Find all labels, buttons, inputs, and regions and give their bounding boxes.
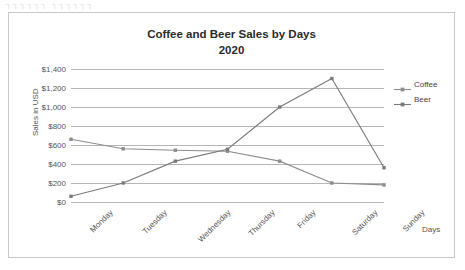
chart-legend: CoffeeBeer xyxy=(394,77,464,107)
data-point-marker xyxy=(382,166,385,169)
legend-label: Coffee xyxy=(414,80,437,89)
y-tick-label: $800 xyxy=(48,122,66,131)
x-tick-label: Monday xyxy=(88,208,114,234)
x-axis-tick-labels: MondayTuesdayWednesdayThursdayFridaySatu… xyxy=(71,208,384,258)
top-text-artifact: ┐┐┐┐┐┐ ┐┐┐┐┐┐ xyxy=(6,0,206,10)
x-axis-title: Days xyxy=(422,225,440,234)
y-tick-label: $600 xyxy=(48,141,66,150)
y-tick-label: $0 xyxy=(57,198,66,207)
legend-item-coffee[interactable]: Coffee xyxy=(394,77,464,92)
data-point-marker xyxy=(69,195,72,198)
x-tick-label: Tuesday xyxy=(141,208,169,236)
legend-label: Beer xyxy=(414,95,431,104)
x-tick-label: Saturday xyxy=(350,208,379,237)
series-line-beer xyxy=(71,79,384,197)
series-lines xyxy=(71,69,384,202)
legend-swatch-icon xyxy=(394,80,411,89)
chart-title-block: Coffee and Beer Sales by Days 2020 xyxy=(9,27,454,58)
data-point-marker xyxy=(278,159,281,162)
y-tick-label: $1,000 xyxy=(42,103,66,112)
data-point-marker xyxy=(330,181,333,184)
gridline xyxy=(71,202,384,203)
y-tick-label: $400 xyxy=(48,160,66,169)
legend-swatch-icon xyxy=(394,95,411,104)
series-line-coffee xyxy=(71,139,384,185)
data-point-marker xyxy=(174,149,177,152)
chart-frame: Coffee and Beer Sales by Days 2020 Sales… xyxy=(8,12,455,258)
y-axis-title: Sales in USD xyxy=(31,88,40,136)
data-point-marker xyxy=(330,77,333,80)
y-tick-label: $1,400 xyxy=(42,65,66,74)
legend-item-beer[interactable]: Beer xyxy=(394,92,464,107)
data-point-marker xyxy=(226,148,229,151)
y-tick-label: $200 xyxy=(48,179,66,188)
data-point-marker xyxy=(69,138,72,141)
data-point-marker xyxy=(382,183,385,186)
data-point-marker xyxy=(121,181,124,184)
x-tick-label: Wednesday xyxy=(197,208,233,244)
chart-subtitle: 2020 xyxy=(9,42,454,58)
plot-area: $0$200$400$600$800$1,000$1,200$1,400 xyxy=(71,69,384,202)
data-point-marker xyxy=(174,159,177,162)
chart-title: Coffee and Beer Sales by Days xyxy=(9,27,454,42)
x-tick-label: Friday xyxy=(295,208,317,230)
data-point-marker xyxy=(121,147,124,150)
x-tick-label: Thursday xyxy=(246,208,276,238)
data-point-marker xyxy=(278,105,281,108)
y-tick-label: $1,200 xyxy=(42,84,66,93)
